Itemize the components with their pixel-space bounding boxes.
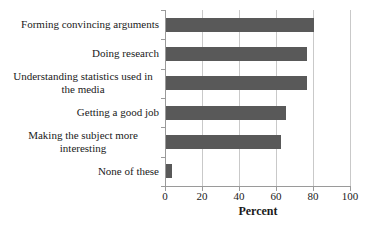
category-label-text: Understanding statistics used in the med… [7,70,159,96]
x-axis-tick-label: 20 [182,190,222,202]
bar-chart: Forming convincing argumentsDoing resear… [0,0,369,228]
category-label: None of these [0,157,159,186]
plot-area [165,10,351,187]
category-axis-labels: Forming convincing argumentsDoing resear… [0,10,159,186]
x-axis-tick-label: 0 [145,190,185,202]
x-axis-tick-label: 80 [293,190,333,202]
gridline [239,10,240,186]
category-label: Making the subject more interesting [0,127,159,156]
bar [166,135,281,149]
bar [166,18,314,32]
category-label-text: None of these [98,165,159,178]
category-label-text: Making the subject more interesting [7,129,159,155]
y-axis-tick [161,98,165,99]
bar [166,47,307,61]
category-label: Getting a good job [0,98,159,127]
category-label-text: Forming convincing arguments [21,18,159,31]
gridline [313,10,314,186]
gridline [350,10,351,186]
x-axis-tick-label: 60 [256,190,296,202]
x-axis-tick-label: 40 [219,190,259,202]
category-label: Understanding statistics used in the med… [0,69,159,98]
y-axis-tick [161,39,165,40]
category-label-text: Getting a good job [77,106,159,119]
y-axis-tick [161,69,165,70]
category-label: Forming convincing arguments [0,10,159,39]
y-axis-tick [161,10,165,11]
x-axis-tick-label: 100 [330,190,369,202]
bar [166,106,286,120]
bar [166,164,172,178]
gridline [276,10,277,186]
category-label: Doing research [0,39,159,68]
category-label-text: Doing research [92,47,159,60]
y-axis-tick [161,127,165,128]
x-axis-title: Percent [165,204,351,219]
y-axis-tick [161,157,165,158]
bar [166,76,307,90]
gridline [202,10,203,186]
